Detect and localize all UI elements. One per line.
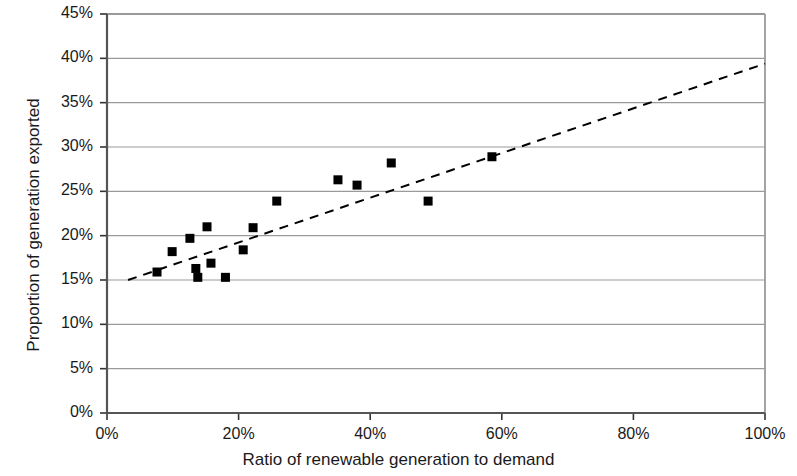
gridlines-group	[107, 14, 765, 413]
x-tick-label: 80%	[588, 425, 678, 443]
data-point-marker	[487, 152, 496, 161]
x-tick-label: 40%	[325, 425, 415, 443]
x-tick-label: 0%	[62, 425, 152, 443]
x-tick-label: 20%	[194, 425, 284, 443]
x-axis-title: Ratio of renewable generation to demand	[0, 450, 797, 470]
data-point-marker	[193, 273, 202, 282]
trend-line-path	[128, 64, 765, 280]
data-point-marker	[387, 158, 396, 167]
x-tick-label: 60%	[457, 425, 547, 443]
data-point-marker	[191, 264, 200, 273]
data-point-marker	[203, 222, 212, 231]
plot-canvas	[0, 0, 797, 476]
data-point-marker	[185, 234, 194, 243]
data-point-marker	[249, 223, 258, 232]
trend-line	[128, 64, 765, 280]
data-point-marker	[239, 245, 248, 254]
data-point-marker	[221, 273, 230, 282]
data-point-marker	[272, 197, 281, 206]
data-point-marker	[168, 247, 177, 256]
y-tick-label: 45%	[23, 4, 93, 22]
y-axis-title: Proportion of generation exported	[24, 25, 44, 425]
scatter-chart: 0%5%10%15%20%25%30%35%40%45% 0%20%40%60%…	[0, 0, 797, 476]
data-point-marker	[206, 259, 215, 268]
data-point-marker	[153, 268, 162, 277]
data-point-marker	[353, 181, 362, 190]
x-tick-label: 100%	[720, 425, 797, 443]
data-point-marker	[424, 197, 433, 206]
data-points-group	[153, 152, 497, 282]
data-point-marker	[333, 175, 342, 184]
